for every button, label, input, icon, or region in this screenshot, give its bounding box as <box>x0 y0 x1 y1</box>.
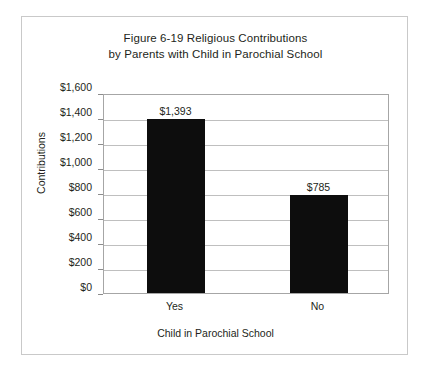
y-axis-tick-label: $600 <box>30 205 92 219</box>
bar-no <box>290 195 348 293</box>
chart-title: Figure 6-19 Religious Contributions by P… <box>22 30 409 62</box>
y-axis-tick-label: $1,200 <box>30 130 92 144</box>
x-axis-tick-label-no: No <box>311 300 324 312</box>
y-axis-tick-label: $0 <box>30 280 92 294</box>
figure-frame: Figure 6-19 Religious Contributions by P… <box>21 16 408 355</box>
bar-value-label-yes: $1,393 <box>159 105 191 117</box>
y-axis-tick <box>98 294 103 295</box>
y-axis-tick-label: $1,000 <box>30 155 92 169</box>
y-axis-tick-marks <box>95 94 103 294</box>
y-axis-tick-label: $400 <box>30 230 92 244</box>
x-axis-tick-labels: YesNo <box>103 300 389 316</box>
x-axis-title: Child in Parochial School <box>22 327 409 339</box>
plot-area: $1,393$785 <box>103 94 389 294</box>
bar-yes <box>147 119 205 293</box>
chart-title-line-1: Figure 6-19 Religious Contributions <box>22 30 409 46</box>
y-axis-tick-label: $200 <box>30 255 92 269</box>
y-axis-tick-labels: $1,600$1,400$1,200$1,000$800$600$400$200… <box>30 87 92 301</box>
bars-layer: $1,393$785 <box>104 95 388 293</box>
x-axis-tick-label-yes: Yes <box>166 300 183 312</box>
bar-value-label-no: $785 <box>307 181 330 193</box>
y-axis-tick-label: $1,400 <box>30 105 92 119</box>
chart-title-line-2: by Parents with Child in Parochial Schoo… <box>22 46 409 62</box>
y-axis-tick-label: $800 <box>30 180 92 194</box>
y-axis-tick-label: $1,600 <box>30 80 92 94</box>
